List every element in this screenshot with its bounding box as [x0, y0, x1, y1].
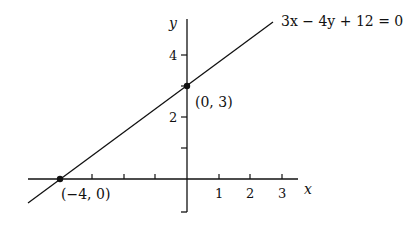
y-tick-label-2: 2 [169, 110, 177, 125]
equation-label: 3x − 4y + 12 = 0 [281, 13, 403, 29]
equation-line [28, 22, 273, 203]
y-ticks [181, 55, 187, 148]
point-label-neg4-0: (−4, 0) [61, 186, 110, 202]
x-axis-label: x [304, 181, 312, 197]
x-tick-label-1: 1 [215, 186, 223, 201]
point-0-3 [184, 83, 190, 89]
point-label-0-3: (0, 3) [195, 94, 233, 110]
y-tick-label-4: 4 [169, 48, 177, 63]
x-tick-label-2: 2 [246, 186, 254, 201]
x-tick-label-3: 3 [278, 186, 286, 201]
point-neg4-0 [57, 176, 63, 182]
y-axis-label: y [168, 15, 178, 31]
line-graph: 3x − 4y + 12 = 0 y x 4 2 1 2 3 (−4, 0) (… [0, 0, 417, 226]
